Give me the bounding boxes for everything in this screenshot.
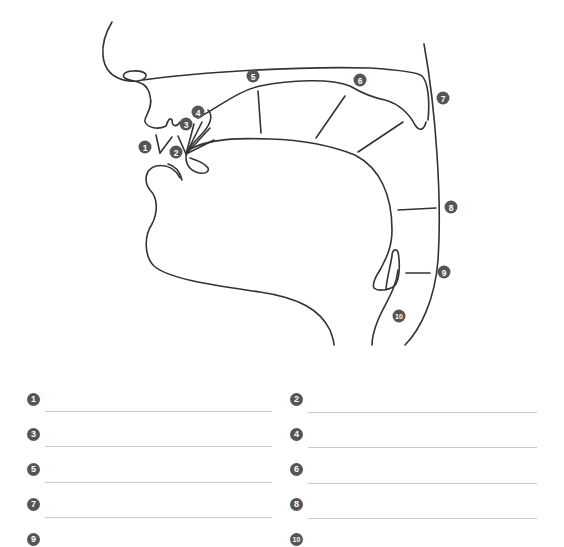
answer-number-7: 7	[27, 498, 40, 511]
answer-line-1[interactable]	[45, 411, 272, 412]
answer-line-6[interactable]	[308, 483, 537, 484]
answer-number-6: 6	[290, 463, 303, 476]
answer-sheet: 1 3 5 7 9 2 4 6 8 10	[0, 0, 564, 547]
answer-number-8: 8	[290, 498, 303, 511]
answer-line-8[interactable]	[308, 518, 537, 519]
answer-number-2: 2	[290, 393, 303, 406]
answer-number-1: 1	[27, 393, 40, 406]
answer-line-3[interactable]	[45, 446, 272, 447]
answer-line-4[interactable]	[308, 447, 537, 448]
answer-number-3: 3	[27, 428, 40, 441]
answer-number-10: 10	[290, 533, 303, 546]
answer-number-4: 4	[290, 428, 303, 441]
answer-line-7[interactable]	[45, 517, 272, 518]
answer-line-5[interactable]	[45, 482, 272, 483]
answer-line-2[interactable]	[308, 412, 537, 413]
answer-number-5: 5	[27, 463, 40, 476]
answer-number-9: 9	[27, 533, 40, 546]
